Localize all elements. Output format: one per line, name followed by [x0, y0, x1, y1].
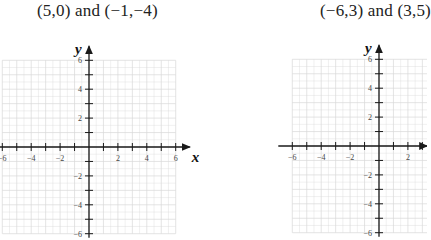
y-tick-label: −6 — [363, 229, 372, 238]
x-tick-label: 4 — [145, 154, 149, 163]
x-tick-label: −6 — [0, 154, 7, 163]
x-axis-label: x — [191, 149, 200, 165]
axes-right: −6−4−22642−2−4−6y — [278, 40, 427, 237]
x-tick-label: 2 — [116, 154, 120, 163]
y-tick-label: −4 — [73, 201, 82, 210]
y-axis-label: y — [73, 41, 82, 57]
y-tick-label: 2 — [368, 113, 372, 122]
y-tick-label: −6 — [73, 230, 82, 239]
x-tick-label: −4 — [27, 154, 36, 163]
y-tick-label: 4 — [78, 85, 82, 94]
y-tick-label: 6 — [368, 55, 372, 64]
y-tick-label: 4 — [368, 84, 372, 93]
y-tick-label: −2 — [73, 172, 82, 181]
y-axis-label: y — [363, 40, 372, 56]
x-tick-label: −4 — [317, 153, 326, 162]
y-tick-label: 6 — [78, 56, 82, 65]
y-tick-label: 2 — [78, 114, 82, 123]
x-tick-label: 6 — [174, 154, 178, 163]
axes-left: −6−4−2246642−2−4−6yx — [0, 41, 200, 238]
x-tick-label: −6 — [288, 153, 297, 162]
x-tick-label: −2 — [56, 154, 65, 163]
x-tick-label: 2 — [406, 153, 410, 162]
x-tick-label: −2 — [346, 153, 355, 162]
y-tick-label: −4 — [363, 200, 372, 209]
y-tick-label: −2 — [363, 171, 372, 180]
